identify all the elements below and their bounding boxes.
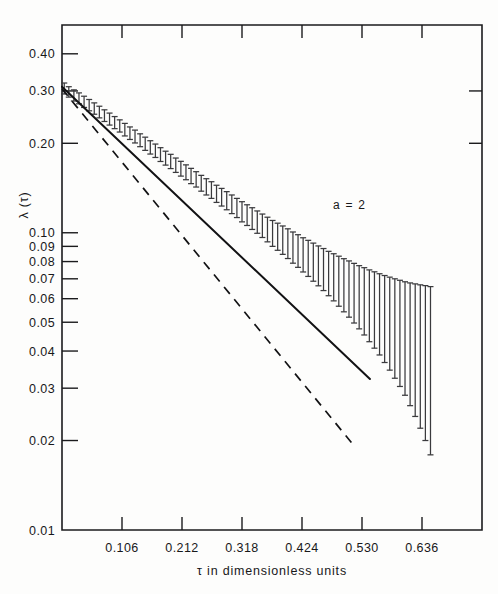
annotation-a-equals-2: a = 2 xyxy=(333,198,366,212)
y-tick-label: 0.10 xyxy=(29,226,55,240)
error-bar xyxy=(341,259,347,312)
error-bar xyxy=(107,113,113,125)
error-bar xyxy=(412,284,418,417)
error-bar xyxy=(178,161,184,176)
error-bar xyxy=(310,243,316,281)
error-bar xyxy=(193,172,199,187)
x-axis-ticks xyxy=(122,25,422,530)
chart-figure: 0.1060.2120.3180.4240.5300.636 0.400.300… xyxy=(0,0,498,594)
error-bar xyxy=(402,282,408,395)
y-tick-label: 0.09 xyxy=(29,240,55,254)
error-bar xyxy=(152,144,158,157)
error-bar xyxy=(361,268,367,335)
x-tick-label: 0.106 xyxy=(105,541,138,555)
error-bar xyxy=(377,274,383,355)
error-bar xyxy=(198,175,204,191)
x-tick-label: 0.212 xyxy=(165,541,198,555)
error-bar xyxy=(101,110,107,122)
y-tick-label: 0.06 xyxy=(29,292,55,306)
error-bar xyxy=(91,103,97,114)
error-bar xyxy=(382,276,388,363)
error-bar xyxy=(127,127,133,140)
error-bar xyxy=(112,117,118,129)
y-tick-label: 0.07 xyxy=(29,272,55,286)
error-bar xyxy=(427,287,433,455)
y-axis-title: λ (τ) xyxy=(17,192,31,219)
figure-page: 0.1060.2120.3180.4240.5300.636 0.400.300… xyxy=(0,0,498,594)
error-bar xyxy=(397,280,403,386)
y-tick-label: 0.03 xyxy=(29,382,55,396)
error-bar xyxy=(371,272,377,348)
error-bar xyxy=(132,130,138,143)
error-bar xyxy=(122,123,128,136)
error-bar xyxy=(173,158,179,172)
error-bar xyxy=(407,283,413,406)
plot-frame xyxy=(62,25,482,530)
error-bar xyxy=(163,151,169,165)
error-bar xyxy=(346,261,352,317)
y-tick-label: 0.20 xyxy=(29,137,55,151)
y-tick-label: 0.08 xyxy=(29,255,55,269)
y-axis-ticks xyxy=(62,54,78,441)
y-tick-label: 0.04 xyxy=(29,345,55,359)
solid-fit-line xyxy=(62,87,370,379)
error-bar xyxy=(142,137,148,150)
error-bar xyxy=(188,168,194,183)
error-bar xyxy=(366,270,372,342)
x-tick-label: 0.424 xyxy=(285,541,318,555)
error-bar xyxy=(305,240,311,276)
error-bar xyxy=(356,266,362,329)
x-tick-label: 0.318 xyxy=(225,541,258,555)
error-bar xyxy=(86,99,92,110)
error-bar xyxy=(326,251,332,295)
x-tick-label: 0.636 xyxy=(405,541,438,555)
dashed-reference-line xyxy=(62,89,354,446)
y-tick-label: 0.30 xyxy=(29,84,55,98)
error-bar xyxy=(315,246,321,286)
error-bar xyxy=(351,263,357,323)
error-bar xyxy=(168,154,174,168)
error-bar xyxy=(157,148,163,162)
error-bar xyxy=(387,277,393,370)
error-bar xyxy=(336,256,342,306)
error-bar xyxy=(392,279,398,378)
error-bar xyxy=(117,120,123,132)
y-tick-label: 0.40 xyxy=(29,47,55,61)
error-bar xyxy=(147,141,153,154)
error-bar xyxy=(208,182,214,199)
right-axis-ticks xyxy=(469,91,482,143)
y-tick-label: 0.01 xyxy=(29,524,55,538)
x-axis-tick-labels: 0.1060.2120.3180.4240.5300.636 xyxy=(105,541,438,555)
y-tick-label: 0.05 xyxy=(29,316,55,330)
y-axis-tick-labels: 0.400.300.200.100.090.080.070.060.050.04… xyxy=(29,47,55,537)
y-tick-label: 0.02 xyxy=(29,434,55,448)
error-bar xyxy=(295,235,301,268)
x-tick-label: 0.530 xyxy=(345,541,378,555)
x-axis-title: τ in dimensionless units xyxy=(197,564,347,578)
error-bar xyxy=(417,285,423,428)
error-bar xyxy=(331,254,337,301)
error-bar xyxy=(183,165,189,180)
error-bar xyxy=(96,106,102,118)
error-bar xyxy=(137,134,143,147)
error-bar xyxy=(321,249,327,291)
error-bar xyxy=(422,286,428,441)
